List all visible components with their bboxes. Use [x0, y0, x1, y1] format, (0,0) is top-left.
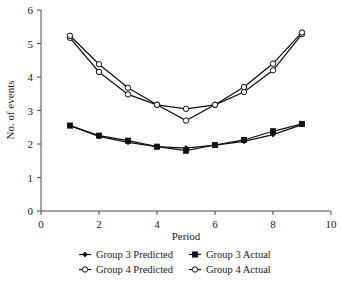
y-axis-title: No. of events	[4, 81, 16, 140]
y-tick-label: 5	[28, 38, 34, 50]
y-tick-label: 1	[28, 172, 34, 184]
series-1-point-7-marker-square	[270, 129, 275, 134]
series-1-point-8-marker-square	[299, 121, 304, 126]
series-1-point-3-marker-square	[154, 144, 159, 149]
series-3-point-1-marker-circle	[96, 62, 101, 67]
series-2	[67, 31, 304, 111]
x-tick-label: 2	[96, 218, 102, 230]
y-tick-label: 6	[28, 4, 34, 16]
x-tick-label: 6	[212, 218, 218, 230]
series-3-point-6-marker-circle	[241, 84, 246, 89]
series-1-point-4-marker-square	[183, 148, 188, 153]
data-series-group	[67, 30, 304, 154]
y-tick-label: 4	[28, 71, 34, 83]
series-3-point-8-marker-circle	[299, 30, 304, 35]
series-2-point-1-marker-circle	[96, 69, 101, 74]
legend-entry-3-marker-circle	[192, 267, 197, 272]
series-1-point-6-marker-square	[241, 137, 246, 142]
x-axis-ticks: 0246810	[38, 211, 337, 230]
legend-entry-0[interactable]: Group 3 Predicted	[79, 249, 174, 260]
x-axis-title: Period	[172, 230, 201, 242]
chart-figure: 0123456 0246810 No. of events Period Gro…	[0, 0, 341, 284]
chart-legend: Group 3 PredictedGroup 3 ActualGroup 4 P…	[79, 249, 271, 275]
legend-entry-0-label: Group 3 Predicted	[96, 249, 174, 260]
legend-entry-3-label: Group 4 Actual	[206, 264, 271, 275]
legend-entry-2[interactable]: Group 4 Predicted	[79, 264, 174, 275]
y-tick-label: 2	[28, 138, 34, 150]
line-chart-canvas: 0123456 0246810 No. of events Period Gro…	[0, 0, 341, 284]
legend-entry-1-marker-square	[192, 252, 197, 257]
y-tick-label: 0	[28, 205, 34, 217]
y-axis-ticks: 0123456	[28, 4, 42, 217]
x-tick-label: 0	[38, 218, 44, 230]
legend-entry-2-label: Group 4 Predicted	[96, 264, 174, 275]
series-2-point-2-marker-circle	[125, 92, 130, 97]
legend-entry-3[interactable]: Group 4 Actual	[189, 264, 271, 275]
series-3-point-5-marker-circle	[212, 102, 217, 107]
series-3-point-7-marker-circle	[270, 61, 275, 66]
series-2-line	[70, 34, 302, 109]
x-tick-label: 4	[154, 218, 160, 230]
series-2-point-4-marker-circle	[183, 106, 188, 111]
legend-entry-2-marker-circle	[82, 267, 87, 272]
series-1-point-0-marker-square	[67, 123, 72, 128]
series-3-point-2-marker-circle	[125, 85, 130, 90]
y-tick-label: 3	[28, 105, 34, 117]
series-3-point-0-marker-circle	[67, 33, 72, 38]
legend-entry-1[interactable]: Group 3 Actual	[189, 249, 271, 260]
legend-entry-1-label: Group 3 Actual	[206, 249, 271, 260]
series-1-point-2-marker-square	[125, 138, 130, 143]
series-3-point-4-marker-circle	[183, 118, 188, 123]
legend-entry-0-marker-diamond	[83, 252, 88, 257]
series-1-point-1-marker-square	[96, 133, 101, 138]
series-2-point-7-marker-circle	[270, 68, 275, 73]
series-3-point-3-marker-circle	[154, 102, 159, 107]
x-tick-label: 10	[326, 218, 338, 230]
series-1-point-5-marker-square	[212, 142, 217, 147]
x-tick-label: 8	[270, 218, 276, 230]
